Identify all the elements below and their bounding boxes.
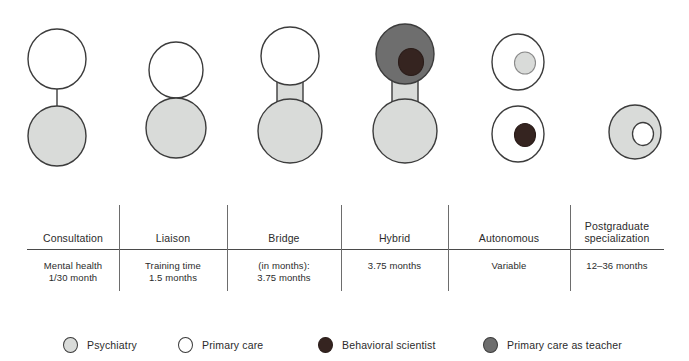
circle-behavioral-scientist-inner (515, 124, 536, 147)
circle-icon (483, 337, 498, 353)
column-header-cell: Consultation (27, 203, 119, 249)
circle-behavioral-scientist (399, 49, 424, 76)
column-header-label: Consultation (43, 232, 103, 244)
diagram-model-bridge (258, 27, 322, 163)
column-header-label: Liaison (156, 232, 190, 244)
column-value-label: 3.75 months (368, 260, 421, 272)
diagram-model-hybrid (373, 24, 437, 163)
legend-item-primary-care: Primary care (178, 337, 263, 353)
circle-psychiatry (28, 106, 86, 166)
circle-primary-care (149, 42, 203, 98)
table-column-postgraduate: Postgraduate specialization 12–36 months (570, 203, 664, 293)
column-value-label: Training time 1.5 months (145, 260, 201, 284)
table-grid: Consultation Mental health 1/30 month Li… (27, 203, 664, 293)
circle-icon (318, 337, 333, 353)
circle-primary-care (28, 29, 86, 89)
column-header-cell: Liaison (119, 203, 227, 249)
table-column-autonomous: Autonomous Variable (448, 203, 570, 293)
legend-item-psychiatry: Psychiatry (63, 337, 137, 353)
legend-label: Primary care as teacher (507, 339, 622, 352)
table-column-liaison: Liaison Training time 1.5 months (119, 203, 227, 293)
column-value-cell: Mental health 1/30 month (27, 249, 119, 293)
circle-psychiatry (258, 99, 322, 163)
circle-psychiatry (373, 99, 437, 163)
integration-models-figure: Consultation Mental health 1/30 month Li… (0, 0, 689, 361)
circle-primary-care-inner (633, 123, 654, 146)
diagram-model-postgraduate (609, 105, 661, 159)
diagram-row (0, 0, 689, 200)
legend-item-primary-care-as-teacher: Primary care as teacher (483, 337, 622, 353)
legend-label: Behavioral scientist (342, 339, 435, 352)
column-value-cell: Training time 1.5 months (119, 249, 227, 293)
table-column-hybrid: Hybrid 3.75 months (341, 203, 448, 293)
legend-item-behavioral-scientist: Behavioral scientist (318, 337, 435, 353)
circle-icon (178, 337, 193, 353)
table-column-bridge: Bridge (in months): 3.75 months (227, 203, 341, 293)
circle-psychiatry-inner (515, 52, 536, 74)
column-header-cell: Postgraduate specialization (570, 203, 664, 249)
legend-label: Psychiatry (87, 339, 137, 352)
legend: Psychiatry Primary care Behavioral scien… (0, 333, 689, 361)
column-header-label: Postgraduate specialization (584, 220, 649, 244)
column-value-cell: (in months): 3.75 months (227, 249, 341, 293)
table-column-consultation: Consultation Mental health 1/30 month (27, 203, 119, 293)
column-value-cell: 3.75 months (341, 249, 448, 293)
column-header-cell: Hybrid (341, 203, 448, 249)
column-value-label: Variable (492, 260, 527, 272)
legend-label: Primary care (202, 339, 263, 352)
column-value-cell: 12–36 months (570, 249, 664, 293)
column-value-label: Mental health 1/30 month (44, 260, 102, 284)
diagram-model-autonomous (492, 34, 544, 162)
diagram-model-consultation (28, 29, 86, 166)
column-header-cell: Autonomous (448, 203, 570, 249)
circle-icon (63, 337, 78, 353)
column-header-label: Hybrid (379, 232, 410, 244)
diagram-svg (0, 0, 689, 200)
column-value-label: 12–36 months (586, 260, 647, 272)
column-header-label: Bridge (268, 232, 299, 244)
column-header-label: Autonomous (479, 232, 539, 244)
model-comparison-table: Consultation Mental health 1/30 month Li… (27, 203, 664, 293)
circle-psychiatry (146, 98, 206, 158)
column-value-cell: Variable (448, 249, 570, 293)
circle-primary-care (261, 27, 319, 85)
diagram-model-liaison (146, 42, 206, 158)
column-value-label: (in months): 3.75 months (257, 260, 310, 284)
column-header-cell: Bridge (227, 203, 341, 249)
